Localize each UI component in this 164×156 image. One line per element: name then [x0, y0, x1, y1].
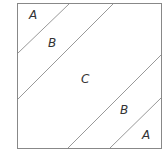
region-label-b-top: B	[48, 36, 56, 50]
square-diagram: A B C B A	[0, 0, 164, 156]
diagonal-line-1	[18, 4, 69, 53]
region-label-b-bottom: B	[120, 103, 128, 117]
region-label-a-top: A	[28, 8, 37, 22]
region-label-c: C	[81, 72, 90, 86]
diagonal-line-4	[110, 98, 161, 148]
region-label-a-bottom: A	[141, 128, 150, 142]
